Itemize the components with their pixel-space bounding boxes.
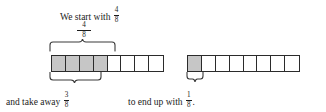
bar-cell [52, 56, 66, 71]
fraction-denominator: 8 [186, 102, 192, 110]
fraction-denominator: 8 [64, 102, 70, 110]
bar-cell [216, 56, 230, 71]
brace-top-icon [48, 38, 118, 52]
fraction-denominator: 8 [114, 17, 120, 25]
brace-bottom-left-icon [48, 72, 104, 86]
bar-cell [230, 56, 244, 71]
brace-top-label-numerator: 4 [77, 22, 91, 30]
caption-end-period: . [193, 97, 195, 107]
bar-cell [271, 56, 285, 71]
fraction-four-eighths-inline: 4 8 [114, 7, 120, 24]
fraction-three-eighths-inline: 3 8 [64, 92, 70, 109]
bar-cell [121, 56, 135, 71]
bar-cell [94, 56, 108, 71]
bar-cell [202, 56, 216, 71]
bar-cell [188, 56, 202, 71]
fraction-one-eighth-inline: 1 8 [186, 92, 192, 109]
brace-bottom-right-icon [184, 72, 206, 86]
bar-cell [257, 56, 271, 71]
caption-take-away: and take away 3 8 [6, 93, 70, 110]
bar-cell [149, 56, 163, 71]
fraction-numerator: 4 [114, 7, 120, 15]
fraction-numerator: 3 [64, 92, 70, 100]
bar-cell [244, 56, 258, 71]
result-bar [187, 55, 300, 72]
bar-cell [66, 56, 80, 71]
caption-end-up-with: to end up with 1 8 . [128, 93, 195, 110]
caption-end-up-with-text: to end up with [128, 97, 183, 107]
caption-take-away-text: and take away [6, 97, 60, 107]
start-bar [51, 55, 164, 72]
bar-cell [108, 56, 122, 71]
fraction-figure: We start with 4 8 4 8 [0, 0, 326, 112]
fraction-numerator: 1 [186, 92, 192, 100]
bar-cell [80, 56, 94, 71]
bar-cell [135, 56, 149, 71]
brace-top-label: 4 8 [77, 22, 91, 39]
bar-cell [285, 56, 299, 71]
